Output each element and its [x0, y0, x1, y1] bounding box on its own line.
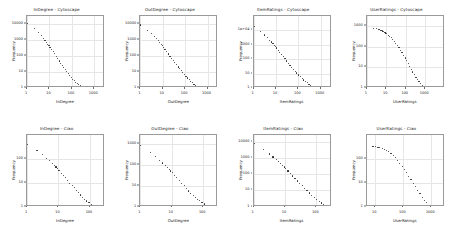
- y-tick-label: 1000: [127, 37, 136, 41]
- y-tick-label: 100: [356, 156, 363, 160]
- data-point: [376, 28, 377, 29]
- y-tick-label: 1: [361, 85, 363, 89]
- data-point: [49, 47, 50, 48]
- data-point: [292, 175, 293, 176]
- gridline-vertical: [254, 135, 255, 205]
- data-point: [411, 69, 412, 70]
- data-point: [43, 38, 44, 39]
- gridline-vertical: [321, 16, 322, 86]
- data-point: [168, 53, 169, 54]
- data-point: [65, 177, 66, 178]
- data-point: [181, 183, 182, 184]
- x-tick-mark: [320, 87, 321, 89]
- data-point: [91, 204, 92, 205]
- x-tick-mark: [93, 87, 94, 89]
- gridline-vertical: [72, 16, 73, 86]
- x-tick-mark: [405, 87, 406, 89]
- data-point: [41, 35, 42, 36]
- x-tick-mark: [184, 87, 185, 89]
- data-point: [67, 180, 68, 181]
- gridline-vertical: [406, 16, 407, 86]
- gridline-vertical: [172, 135, 173, 205]
- x-tick-mark: [162, 87, 163, 89]
- gridline-horizontal: [254, 158, 330, 159]
- y-tick-label: 1: [247, 85, 249, 89]
- x-tick-mark: [48, 87, 49, 89]
- data-point: [428, 205, 429, 206]
- y-tick-mark: [251, 58, 253, 59]
- data-point: [147, 30, 148, 31]
- panel-title: UserRatings - Cytoscape: [340, 7, 453, 12]
- gridline-horizontal: [254, 30, 330, 31]
- x-tick-mark: [424, 87, 425, 89]
- x-tick-label: 10: [383, 91, 387, 95]
- x-tick-label: 100: [401, 91, 408, 95]
- data-point: [46, 158, 47, 159]
- y-tick-mark: [137, 54, 139, 55]
- data-point: [86, 200, 87, 201]
- x-tick-label: 1: [25, 210, 27, 214]
- x-tick-label: 1000: [426, 210, 435, 214]
- data-point: [272, 156, 273, 157]
- data-point: [379, 147, 380, 148]
- gridline-vertical: [316, 135, 317, 205]
- x-tick-label: 100: [86, 210, 93, 214]
- x-tick-label: 10: [55, 210, 59, 214]
- y-tick-mark: [137, 22, 139, 23]
- x-tick-mark: [171, 206, 172, 208]
- data-point: [263, 149, 264, 150]
- y-tick-mark: [251, 72, 253, 73]
- x-tick-mark: [402, 206, 403, 208]
- data-point: [167, 167, 168, 168]
- data-point: [412, 71, 413, 72]
- data-point: [150, 152, 151, 153]
- chart-panel: ItemRatings - CiaoFrequency1101001000100…: [227, 119, 340, 238]
- y-tick-mark: [137, 164, 139, 165]
- data-point: [397, 160, 398, 161]
- data-point: [176, 64, 177, 65]
- y-tick-label: 10: [358, 180, 362, 184]
- data-point: [278, 50, 279, 51]
- data-point: [51, 49, 52, 50]
- x-tick-label: 100: [68, 91, 75, 95]
- data-point: [386, 150, 387, 151]
- data-point: [82, 197, 83, 198]
- data-point: [287, 170, 288, 171]
- gridline-vertical: [94, 16, 95, 86]
- data-point: [422, 197, 423, 198]
- data-point: [38, 32, 39, 33]
- y-tick-label: 10000: [125, 21, 136, 25]
- data-point: [413, 183, 414, 184]
- x-tick-mark: [430, 206, 431, 208]
- x-tick-label: 1000: [315, 91, 324, 95]
- x-tick-mark: [207, 87, 208, 89]
- y-tick-label: 10: [132, 69, 136, 73]
- data-point: [74, 187, 75, 188]
- gridline-horizontal: [254, 74, 330, 75]
- x-axis-label: UserRatings: [366, 99, 444, 104]
- y-tick-label: 10: [358, 64, 362, 68]
- panel-title: OutDegree - Cytoscape: [113, 7, 226, 12]
- y-tick-label: 1: [134, 85, 136, 89]
- gridline-horizontal: [140, 56, 216, 57]
- x-tick-mark: [297, 87, 298, 89]
- x-tick-label: 10: [46, 91, 50, 95]
- data-point: [404, 169, 405, 170]
- gridline-vertical: [375, 135, 376, 205]
- x-tick-label: 100: [399, 210, 406, 214]
- y-tick-label: 1: [247, 204, 249, 208]
- y-tick-label: 10: [245, 187, 249, 191]
- y-tick-mark: [24, 157, 26, 158]
- data-point: [388, 151, 389, 152]
- data-point: [199, 200, 200, 201]
- gridline-horizontal: [140, 165, 216, 166]
- data-point: [305, 81, 306, 82]
- gridline-horizontal: [27, 24, 103, 25]
- gridline-vertical: [208, 16, 209, 86]
- y-axis-label: Frequency: [125, 41, 130, 61]
- data-point: [278, 161, 279, 162]
- gridline-horizontal: [254, 45, 330, 46]
- x-axis-label: ItemRatings: [253, 218, 331, 223]
- y-tick-mark: [251, 189, 253, 190]
- y-tick-label: 10: [245, 71, 249, 75]
